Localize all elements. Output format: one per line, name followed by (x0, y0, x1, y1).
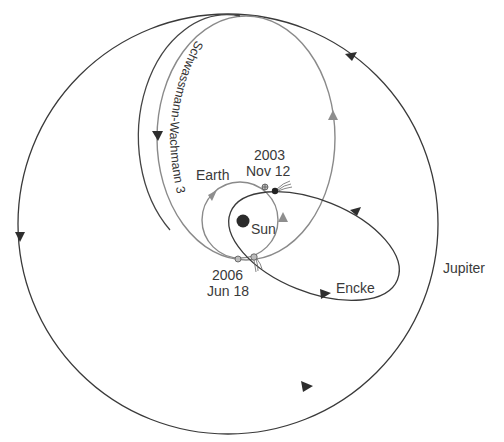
encke-orbit (213, 170, 414, 323)
comet-tail-icon (254, 259, 262, 272)
encke-label: Encke (336, 280, 375, 296)
earth-direction-arrow-right (278, 212, 288, 222)
orbit-diagram: Schwassmann-Wachmann 3 Earth Sun 2003 No… (0, 0, 504, 442)
event2-date-label: Jun 18 (207, 283, 249, 299)
sun-icon (237, 215, 250, 228)
jupiter-orbit (15, 14, 438, 434)
event2-year-label: 2006 (212, 267, 243, 283)
earth-position-marker-2006 (235, 256, 241, 262)
encke-direction-arrow-top (350, 207, 361, 216)
sun-label: Sun (251, 221, 276, 237)
sw3-direction-arrow-left (152, 131, 163, 141)
earth-direction-arrow-left (208, 190, 217, 201)
jupiter-label: Jupiter (443, 260, 485, 276)
comet-tail-icon (277, 181, 292, 191)
jupiter-direction-arrow-bottom (301, 381, 313, 392)
event1-year-label: 2003 (254, 147, 285, 163)
event1-date-label: Nov 12 (246, 163, 291, 179)
sw3-direction-arrow-right (328, 110, 338, 120)
earth-label: Earth (196, 167, 229, 183)
jupiter-direction-arrow-left (15, 232, 25, 242)
